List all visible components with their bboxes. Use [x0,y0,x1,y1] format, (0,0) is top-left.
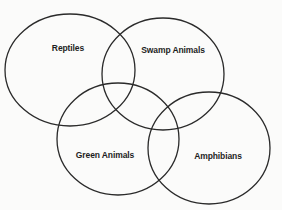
green-animals-circle [57,83,179,195]
venn-diagram [0,0,282,210]
amphibians-label: Amphibians [194,151,242,161]
swamp-animals-circle [102,18,224,130]
swamp-animals-label: Swamp Animals [141,45,205,55]
reptiles-label: Reptiles [52,43,84,53]
amphibians-circle [148,92,270,204]
green-animals-label: Green Animals [76,150,134,160]
